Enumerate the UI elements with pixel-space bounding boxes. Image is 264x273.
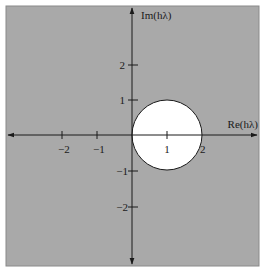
real-axis-label: Re(hλ) — [228, 118, 259, 131]
x-tick-label-neg1: −1 — [93, 143, 105, 155]
y-tick-label-1: 1 — [120, 94, 126, 106]
x-tick-label-neg2: −2 — [58, 143, 70, 155]
diagram-frame: −2 −1 1 2 2 1 −1 −2 Im(hλ) Re(hλ) — [0, 0, 264, 273]
x-tick-label-2: 2 — [200, 143, 206, 155]
x-tick-label-1: 1 — [164, 143, 170, 155]
y-tick-label-neg1: −1 — [116, 165, 128, 177]
y-tick-label-2: 2 — [120, 59, 126, 71]
imaginary-axis-label: Im(hλ) — [141, 9, 172, 22]
y-tick-label-neg2: −2 — [116, 201, 128, 213]
